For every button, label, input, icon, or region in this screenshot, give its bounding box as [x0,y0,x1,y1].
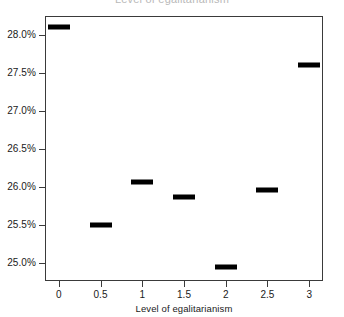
x-axis-tick [142,281,143,287]
x-axis-tick-label: 0.5 [81,289,121,300]
x-axis-tick-label: 2 [206,289,246,300]
plot-area [45,16,323,281]
x-axis-tick [267,281,268,287]
data-point-marker [298,63,320,68]
y-axis-tick [39,263,45,264]
data-point-marker [173,195,195,200]
x-axis-tick-label: 2.5 [247,289,287,300]
y-axis-tick-label: 25.5% [0,220,36,230]
x-axis-tick [309,281,310,287]
y-axis-tick [39,35,45,36]
x-axis-tick [226,281,227,287]
y-axis-tick-label: 26.0% [0,182,36,192]
data-point-marker [131,180,153,185]
x-axis-tick [101,281,102,287]
y-axis-tick [39,73,45,74]
data-point-marker [256,188,278,193]
x-axis-tick [59,281,60,287]
y-axis-tick [39,225,45,226]
y-axis-tick [39,149,45,150]
x-axis-tick [184,281,185,287]
x-axis-tick-label: 1 [122,289,162,300]
y-axis-tick-label: 27.5% [0,68,36,78]
y-axis-tick-label: 28.0% [0,30,36,40]
y-axis-tick-label: 25.0% [0,258,36,268]
y-axis-tick [39,187,45,188]
x-axis-title: Level of egalitarianism [45,303,323,314]
y-axis-tick-label: 27.0% [0,106,36,116]
x-axis-tick-label: 1.5 [164,289,204,300]
chart-screenshot: Level of egalitarianism 25.0%25.5%26.0%2… [0,0,344,317]
data-point-marker [48,25,70,30]
data-point-marker [90,223,112,228]
data-point-marker [215,265,237,270]
x-axis-tick-label: 0 [39,289,79,300]
cropped-title-sliver: Level of egalitarianism [0,0,344,7]
x-axis-tick-label: 3 [289,289,329,300]
y-axis-tick-label: 26.5% [0,144,36,154]
cropped-title-text: Level of egalitarianism [115,0,229,5]
y-axis-tick [39,111,45,112]
